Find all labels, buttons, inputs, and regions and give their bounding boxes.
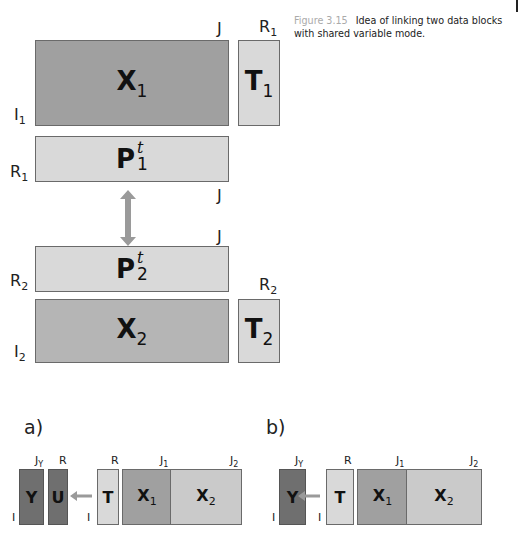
b-block-x2-label: X2 (434, 486, 453, 508)
a-block-x1: X1 (122, 469, 171, 525)
block-x1: X1 (35, 40, 229, 126)
a-x1-col-label: J1 (160, 455, 168, 469)
b-t-col-label: R (344, 455, 352, 466)
a-block-x2: X2 (170, 469, 242, 525)
x2-row-label: I2 (14, 344, 26, 363)
a-block-u: U (48, 469, 68, 525)
p1-col-label: J (217, 188, 222, 204)
b-x1-col-label: J1 (396, 455, 404, 469)
a-y-col-label: JY (35, 455, 43, 469)
t1-col-label: R1 (259, 19, 277, 38)
figure-label: Figure 3.15 (294, 15, 348, 26)
p2-row-label: R2 (10, 273, 28, 292)
a-left-arrow-icon (70, 491, 92, 501)
x1-col-label: J (217, 21, 222, 37)
block-x1-label: X1 (117, 66, 148, 101)
block-p1-label: P t1 (116, 146, 148, 173)
a-y-row-label: I (12, 512, 15, 523)
b-block-x1-label: X1 (373, 486, 392, 508)
block-p2-transpose: P t2 (35, 246, 229, 292)
block-p2-label: P t2 (116, 256, 148, 283)
a-block-x2-label: X2 (196, 486, 215, 508)
b-t-row-label: I (318, 512, 321, 523)
a-t-row-label: I (87, 512, 90, 523)
b-block-x2: X2 (406, 469, 482, 525)
a-block-t: T (97, 469, 119, 525)
b-block-t: T (326, 469, 354, 525)
block-x2: X2 (35, 299, 229, 363)
b-y-row-label: I (272, 512, 275, 523)
a-block-y: Y (19, 469, 44, 525)
a-t-col-label: R (111, 455, 119, 466)
t2-col-label: R2 (259, 277, 277, 296)
a-u-col-label: R (59, 455, 67, 466)
p1-row-label: R1 (10, 164, 28, 183)
figure-caption: Figure 3.15Idea of linking two data bloc… (294, 14, 514, 40)
block-t2-label: T2 (245, 314, 274, 349)
a-block-u-label: U (52, 488, 65, 507)
b-block-y-label: Y (287, 488, 299, 507)
x1-row-label: I1 (14, 107, 26, 126)
a-block-x1-label: X1 (137, 486, 156, 508)
a-block-t-label: T (103, 488, 114, 507)
b-block-x1: X1 (357, 469, 407, 525)
b-y-col-label: JY (295, 455, 303, 469)
block-t1: T1 (238, 40, 280, 126)
panel-b-label: b) (266, 416, 285, 438)
a-block-y-label: Y (26, 488, 38, 507)
block-t2: T2 (238, 299, 280, 363)
block-p1-transpose: P t1 (35, 136, 229, 182)
panel-a-label: a) (24, 416, 43, 438)
p2-col-label: J (217, 229, 222, 245)
b-left-arrow-icon (298, 491, 320, 501)
double-arrow-icon (119, 190, 137, 246)
b-block-t-label: T (335, 488, 346, 507)
a-x2-col-label: J2 (230, 455, 238, 469)
block-x2-label: X2 (117, 314, 148, 349)
block-t1-label: T1 (245, 66, 274, 101)
b-x2-col-label: J2 (470, 455, 478, 469)
